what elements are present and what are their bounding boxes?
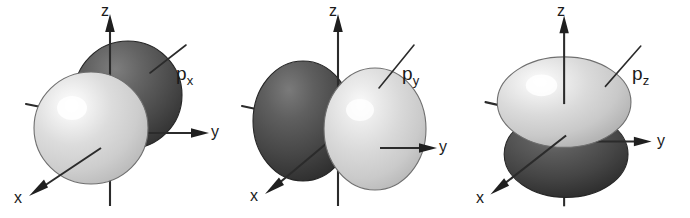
p-orbitals-figure: z y x px — [0, 0, 690, 218]
orbital-label-py-sub: y — [413, 73, 420, 88]
orbital-label-px-main: p — [176, 63, 187, 84]
axis-label-x-pz: x — [476, 190, 484, 206]
specular-highlight — [346, 99, 374, 121]
specular-highlight — [57, 96, 87, 120]
axis-x-arrowhead — [265, 178, 284, 195]
axis-y-arrowhead — [634, 137, 652, 146]
orbital-panel-px: z y x px — [0, 0, 230, 218]
orbital-label-px-sub: x — [187, 73, 194, 88]
axis-label-z-px: z — [101, 3, 109, 19]
axis-y-arrowhead — [191, 128, 209, 138]
orbital-label-py-main: p — [402, 63, 413, 84]
axis-label-x-px: x — [14, 190, 22, 206]
axis-x-arrowhead — [490, 178, 509, 194]
orbital-panel-pz: z y x pz — [456, 0, 686, 218]
orbital-label-pz: pz — [632, 64, 649, 87]
orbital-label-pz-sub: z — [643, 73, 650, 88]
specular-highlight — [526, 75, 557, 97]
axis-label-z-py: z — [329, 3, 337, 19]
axis-y-arrowhead — [419, 143, 437, 153]
axis-label-y-px: y — [211, 124, 219, 140]
orbital-label-px: px — [176, 64, 193, 87]
axis-label-x-py: x — [250, 188, 258, 204]
orbital-label-pz-main: p — [632, 63, 643, 84]
axis-x-arrowhead — [29, 180, 48, 197]
orbital-label-py: py — [402, 64, 419, 87]
orbital-panel-py: z y x py — [228, 0, 458, 218]
axis-label-y-py: y — [439, 139, 447, 155]
orbital-lobe-light-px — [34, 72, 148, 184]
axis-label-z-pz: z — [557, 3, 565, 19]
axis-label-y-pz: y — [657, 133, 665, 149]
